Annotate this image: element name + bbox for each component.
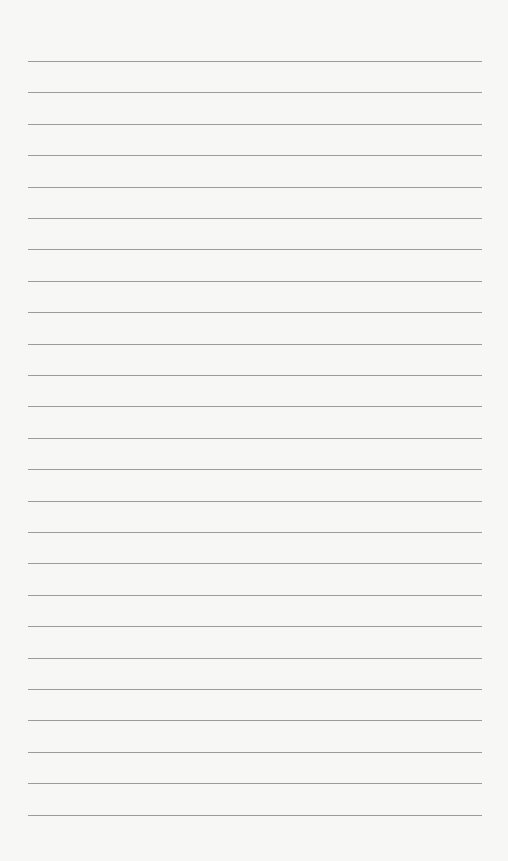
ruled-line bbox=[28, 595, 482, 596]
ruled-line bbox=[28, 532, 482, 533]
ruled-line bbox=[28, 61, 482, 62]
ruled-line bbox=[28, 344, 482, 345]
ruled-line bbox=[28, 375, 482, 376]
ruled-line bbox=[28, 689, 482, 690]
ruled-line bbox=[28, 501, 482, 502]
ruled-line bbox=[28, 249, 482, 250]
ruled-line bbox=[28, 563, 482, 564]
ruled-line bbox=[28, 155, 482, 156]
ruled-line bbox=[28, 783, 482, 784]
ruled-line bbox=[28, 312, 482, 313]
ruled-line bbox=[28, 92, 482, 93]
ruled-line bbox=[28, 720, 482, 721]
ruled-line bbox=[28, 752, 482, 753]
ruled-line bbox=[28, 124, 482, 125]
ruled-line bbox=[28, 815, 482, 816]
ruled-line bbox=[28, 218, 482, 219]
ruled-line bbox=[28, 626, 482, 627]
ruled-line bbox=[28, 469, 482, 470]
ruled-line bbox=[28, 658, 482, 659]
ruled-line bbox=[28, 438, 482, 439]
lined-paper-page bbox=[0, 0, 508, 861]
ruled-line bbox=[28, 406, 482, 407]
ruled-line bbox=[28, 281, 482, 282]
ruled-line bbox=[28, 187, 482, 188]
